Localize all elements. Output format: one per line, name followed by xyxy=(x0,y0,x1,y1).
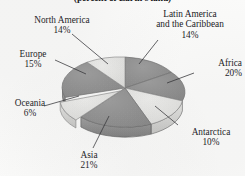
slice-label-antarctica-name: Antarctica xyxy=(192,127,231,137)
slice-label-latin-america: Latin America and the Caribbean 14% xyxy=(137,9,243,40)
slice-label-europe-percent: 15% xyxy=(2,59,64,69)
slice-label-europe-name: Europe xyxy=(20,49,47,59)
pie-chart: North America 14% Latin America and the … xyxy=(0,0,245,176)
slice-label-latin-america-name-line1: Latin America xyxy=(163,9,216,19)
slice-label-latin-america-percent: 14% xyxy=(137,30,243,40)
slice-label-oceania-name: Oceania xyxy=(15,98,45,108)
slice-label-asia: Asia 21% xyxy=(62,150,116,171)
slice-label-antarctica-percent: 10% xyxy=(180,137,242,147)
leader-line-north-america xyxy=(72,34,108,64)
slice-label-asia-percent: 21% xyxy=(62,160,116,170)
figure-canvas: (percent of Earth's land) xyxy=(0,0,245,176)
slice-label-oceania-percent: 6% xyxy=(1,108,59,118)
slice-label-asia-name: Asia xyxy=(80,150,97,160)
pie-top-faces xyxy=(60,57,185,127)
slice-label-africa-name: Africa xyxy=(218,58,242,68)
slice-label-north-america-name: North America xyxy=(34,15,90,25)
slice-label-latin-america-name-line2: and the Caribbean xyxy=(156,19,224,29)
slice-label-north-america-percent: 14% xyxy=(14,25,110,35)
slice-label-europe: Europe 15% xyxy=(2,49,64,70)
slice-label-antarctica: Antarctica 10% xyxy=(180,127,242,148)
slice-label-north-america: North America 14% xyxy=(14,15,110,36)
slice-label-africa: Africa 20% xyxy=(190,58,242,79)
slice-label-oceania: Oceania 6% xyxy=(1,98,59,119)
slice-label-africa-percent: 20% xyxy=(190,68,242,78)
